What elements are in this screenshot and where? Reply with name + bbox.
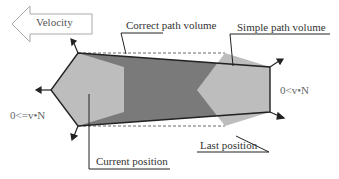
last-position-label: Last position <box>200 140 257 151</box>
velocity-label: Velocity <box>36 17 73 28</box>
simple-path-label: Simple path volume <box>237 22 326 33</box>
left-condition-label: 0<=v•N <box>10 110 45 121</box>
correct-path-leader <box>121 33 163 54</box>
current-position-label: Current position <box>96 156 168 167</box>
correct-path-label: Correct path volume <box>126 20 216 31</box>
right-condition-label: 0<v•N <box>280 85 309 96</box>
current-position-pentagon <box>51 53 124 126</box>
